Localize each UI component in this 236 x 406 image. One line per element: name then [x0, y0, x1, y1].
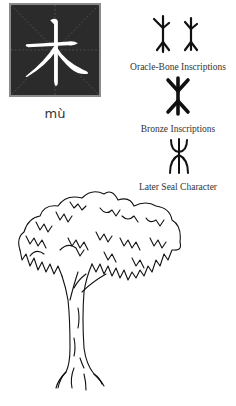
character-card	[9, 3, 101, 97]
oracle-bone-glyphs	[148, 14, 222, 58]
tree-illustration	[0, 188, 236, 406]
bronze-label: Bronze Inscriptions	[120, 124, 236, 134]
oracle-bone-label: Oracle-Bone Inscriptions	[120, 62, 236, 72]
pinyin-label: mù	[9, 106, 101, 121]
hanzi-mu-glyph	[11, 5, 99, 95]
bronze-glyph	[163, 76, 193, 118]
seal-glyph	[166, 137, 192, 175]
